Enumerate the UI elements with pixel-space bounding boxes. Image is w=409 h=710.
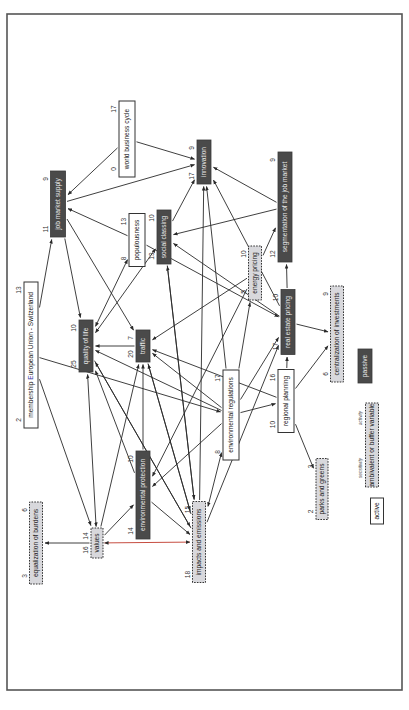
node-sensitivity-value: 8 xyxy=(214,450,221,454)
node-activity-value: 10 xyxy=(240,250,247,258)
node-sensitivity-value: 20 xyxy=(127,350,134,358)
node-activity-value: 9 xyxy=(188,146,195,150)
node-sensitivity-value: 18 xyxy=(184,571,191,579)
node-activity-value: 9 xyxy=(42,177,49,181)
node-label: parks and greens xyxy=(318,463,326,515)
node-sensitivity-value: 6 xyxy=(322,372,329,376)
node-activity-value: 10 xyxy=(127,455,134,463)
node-label: regional planning xyxy=(282,376,290,427)
node-sensitivity-value: 12 xyxy=(269,250,276,258)
node-label: job market supply xyxy=(54,177,62,230)
node-activity-value: 10 xyxy=(272,294,279,302)
legend-passive-label: passive xyxy=(361,354,369,377)
node-sensitivity-value: 16 xyxy=(82,546,89,554)
legend-passive: passive xyxy=(358,349,372,383)
node-activity-value: 3 xyxy=(307,464,314,468)
legend-active-label: active xyxy=(373,502,380,520)
node-label: traffic xyxy=(139,337,146,354)
edge-rep-to-seg xyxy=(287,265,288,289)
node-sensitivity-value: 13 xyxy=(148,252,155,260)
node-label: world business cycle xyxy=(123,108,131,170)
legend-ambivalent-label: ambivalent or buffer variable xyxy=(368,403,375,486)
node-sensitivity-value: 2 xyxy=(307,509,314,513)
node-activity-value: 15 xyxy=(184,506,191,514)
legend-active: active xyxy=(371,498,384,524)
node-sensitivity-value: 0 xyxy=(110,167,117,171)
node-activity-value: 13 xyxy=(120,218,127,226)
legend-sensitivity-label: sensitivity xyxy=(358,457,363,478)
legend-ambivalent: ambivalent or buffer variable xyxy=(366,403,379,487)
node-activity-value: 10 xyxy=(70,324,77,332)
node-activity-value: 10 xyxy=(148,214,155,222)
node-label: values xyxy=(93,533,100,553)
node-sensitivity-value: 17 xyxy=(272,343,279,351)
node-label: impacts and emissions xyxy=(195,508,203,575)
node-label: real estate pricing xyxy=(284,296,292,348)
node-label: quality of life xyxy=(82,327,90,364)
node-activity-value: 16 xyxy=(269,374,276,382)
node-sensitivity-value: 17 xyxy=(188,172,195,180)
node-activity-value: 9 xyxy=(269,158,276,162)
influence-diagram: world business cycle017innovation179job … xyxy=(0,0,409,710)
node-sensitivity-value: 11 xyxy=(42,225,49,232)
node-sensitivity-value: 10 xyxy=(269,421,276,429)
node-sensitivity-value: 14 xyxy=(127,527,134,535)
node-sensitivity-value: 3 xyxy=(21,574,28,578)
node-activity-value: 13 xyxy=(15,286,22,294)
node-activity-value: 7 xyxy=(127,336,134,340)
node-activity-value: 14 xyxy=(82,532,89,540)
node-label: populousness xyxy=(133,219,141,260)
node-label: environmental regulations xyxy=(227,377,235,453)
node-label: membership European Union - Switzerland xyxy=(27,292,35,418)
node-label: social classing xyxy=(160,215,168,258)
node-sensitivity-value: 25 xyxy=(70,360,77,368)
node-label: equalization of burdens xyxy=(32,508,40,577)
node-activity-value: 17 xyxy=(110,105,117,113)
node-label: segmentation of the job market xyxy=(281,162,289,253)
node-activity-value: 6 xyxy=(21,508,28,512)
node-sensitivity-value: 2 xyxy=(15,418,22,422)
node-activity-value: 17 xyxy=(214,374,221,382)
node-label: centralization of investments xyxy=(333,292,340,376)
node-activity-value: 9 xyxy=(322,292,329,296)
node-label: environmental protection xyxy=(139,459,147,532)
node-label: energy pricing xyxy=(251,252,259,294)
node-sensitivity-value: 8 xyxy=(120,256,127,260)
legend-activity-label: activity xyxy=(358,410,363,425)
node-sensitivity-value: 5 xyxy=(240,290,247,294)
node-label: innovation xyxy=(200,147,207,177)
